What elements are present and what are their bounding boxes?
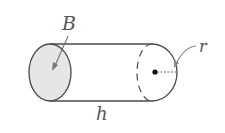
cylinder-base-B	[29, 44, 71, 101]
label-B: B	[61, 12, 76, 34]
radius-leader-curve	[176, 46, 196, 64]
center-point	[152, 69, 157, 74]
label-h: h	[96, 103, 108, 124]
cylinder-diagram: B r h	[0, 0, 225, 133]
cylinder-right-end-hidden-arc	[137, 44, 152, 101]
label-r: r	[199, 37, 208, 56]
